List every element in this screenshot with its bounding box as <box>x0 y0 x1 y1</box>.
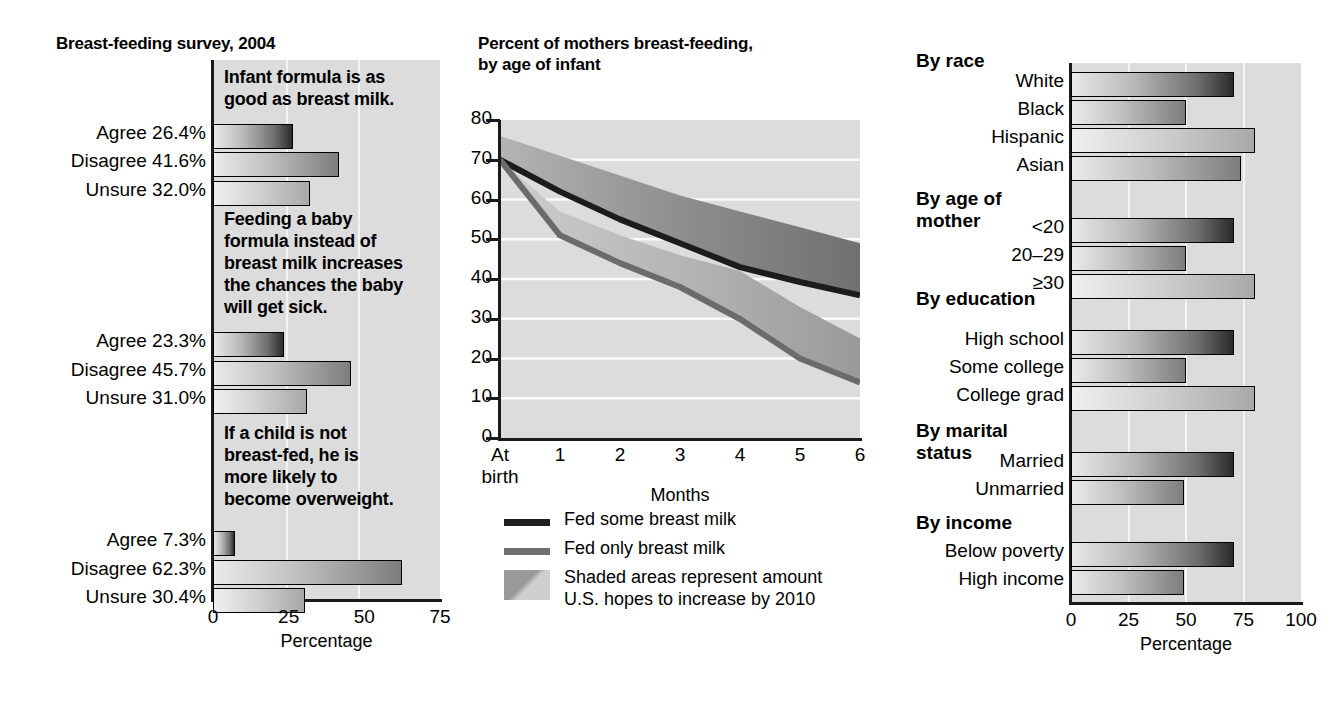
right-row-label-4-1: Married <box>900 450 1064 472</box>
right-row-label-4-2: Unmarried <box>900 478 1064 500</box>
right-bar-2-1 <box>1071 218 1234 243</box>
right-x-tick-0: 0 <box>1045 609 1097 631</box>
center-y-tick-70: 70 <box>446 147 492 169</box>
center-y-tickmark-80 <box>486 119 500 122</box>
left-bar-1-2 <box>213 152 339 177</box>
center-chart-svg <box>500 120 860 438</box>
left-bar-2-3 <box>213 389 307 414</box>
gray-line-swatch-icon <box>504 548 550 555</box>
left-survey-chart-panel: Breast-feeding survey, 2004 Infant formu… <box>0 0 460 711</box>
center-y-tickmark-70 <box>486 159 500 162</box>
right-bar-4-2 <box>1071 480 1184 505</box>
right-x-tick-100: 100 <box>1275 609 1327 631</box>
left-row-label-3-1: Agree 7.3% <box>40 529 206 551</box>
right-bar-1-1 <box>1071 72 1234 97</box>
center-y-tickmark-0 <box>486 437 500 440</box>
left-x-tick-0: 0 <box>189 606 237 628</box>
left-row-label-2-2: Disagree 45.7% <box>40 359 206 381</box>
right-bar-3-3 <box>1071 386 1255 411</box>
left-bar-2-1 <box>213 332 284 357</box>
legend-label-fed-only: Fed only breast milk <box>564 537 725 559</box>
center-y-tick-80: 80 <box>446 107 492 129</box>
center-y-tick-60: 60 <box>446 187 492 209</box>
left-row-label-1-1: Agree 26.4% <box>40 122 206 144</box>
center-y-tick-30: 30 <box>446 306 492 328</box>
right-bar-1-3 <box>1071 128 1255 153</box>
left-row-label-2-3: Unsure 31.0% <box>40 387 206 409</box>
left-x-tick-25: 25 <box>265 606 313 628</box>
center-x-tick-3: 3 <box>646 444 714 466</box>
left-x-tick-75: 75 <box>416 606 464 628</box>
right-bar-2-3 <box>1071 274 1255 299</box>
right-x-tick-75: 75 <box>1218 609 1270 631</box>
left-question-1: Infant formula is as good as breast milk… <box>224 66 434 110</box>
right-bar-5-2 <box>1071 570 1184 595</box>
right-group-head-5: By income <box>916 512 1066 534</box>
center-chart-title: Percent of mothers breast-feeding, by ag… <box>478 33 753 75</box>
center-y-tickmark-30 <box>486 318 500 321</box>
center-plot-area <box>500 120 860 438</box>
center-y-tick-10: 10 <box>446 385 492 407</box>
center-y-tick-50: 50 <box>446 226 492 248</box>
legend-label-shaded-areas: Shaded areas represent amount U.S. hopes… <box>564 566 822 610</box>
center-y-tickmark-20 <box>486 358 500 361</box>
right-row-label-5-1: Below poverty <box>900 540 1064 562</box>
right-x-tick-25: 25 <box>1103 609 1155 631</box>
center-y-tick-40: 40 <box>446 266 492 288</box>
left-bar-1-3 <box>213 181 310 206</box>
center-x-tick-1: 1 <box>526 444 594 466</box>
right-bar-3-1 <box>1071 330 1234 355</box>
center-x-tick-5: 5 <box>766 444 834 466</box>
left-x-tick-50: 50 <box>340 606 388 628</box>
right-row-label-3-3: College grad <box>900 384 1064 406</box>
right-row-label-2-3: ≥30 <box>900 272 1064 294</box>
dark-line-swatch-icon <box>504 519 550 526</box>
right-row-label-3-1: High school <box>900 328 1064 350</box>
center-y-tick-20: 20 <box>446 346 492 368</box>
left-question-2: Feeding a baby formula instead of breast… <box>224 208 434 318</box>
left-row-label-1-3: Unsure 32.0% <box>40 179 206 201</box>
center-x-tick-6: 6 <box>826 444 894 466</box>
center-y-tickmark-10 <box>486 397 500 400</box>
left-bar-2-2 <box>213 361 351 386</box>
left-row-label-2-1: Agree 23.3% <box>40 330 206 352</box>
right-bar-5-1 <box>1071 542 1234 567</box>
left-bar-1-1 <box>213 124 293 149</box>
gridline-50 <box>358 60 360 600</box>
left-bar-3-2 <box>213 560 402 585</box>
right-row-label-3-2: Some college <box>900 356 1064 378</box>
center-x-tick-0: At birth <box>466 444 534 488</box>
right-row-label-1-2: Black <box>900 98 1064 120</box>
right-group-head-1: By race <box>916 50 1066 72</box>
right-row-label-5-2: High income <box>900 568 1064 590</box>
shaded-area-swatch-icon <box>504 570 550 600</box>
left-question-3: If a child is not breast-fed, he is more… <box>224 422 434 510</box>
right-row-label-2-2: 20–29 <box>900 244 1064 266</box>
center-x-axis-line <box>498 438 862 441</box>
right-bar-3-2 <box>1071 358 1186 383</box>
left-row-label-1-2: Disagree 41.6% <box>40 150 206 172</box>
left-bar-3-1 <box>213 531 235 556</box>
left-x-axis-title: Percentage <box>213 631 440 652</box>
left-chart-title: Breast-feeding survey, 2004 <box>56 33 275 54</box>
right-bar-1-2 <box>1071 100 1186 125</box>
center-y-tickmark-60 <box>486 199 500 202</box>
right-row-label-1-3: Hispanic <box>900 126 1064 148</box>
center-x-tick-2: 2 <box>586 444 654 466</box>
center-x-tick-4: 4 <box>706 444 774 466</box>
right-row-label-2-1: <20 <box>900 216 1064 238</box>
right-bar-2-2 <box>1071 246 1186 271</box>
left-row-label-3-3: Unsure 30.4% <box>40 586 206 608</box>
right-x-tick-50: 50 <box>1160 609 1212 631</box>
center-y-tickmark-40 <box>486 278 500 281</box>
right-x-axis-title: Percentage <box>1071 634 1301 655</box>
right-bar-1-4 <box>1071 156 1241 181</box>
center-line-chart-panel: Percent of mothers breast-feeding, by ag… <box>460 0 900 711</box>
right-demographics-chart-panel: By raceBy age of motherBy educationBy ma… <box>900 0 1330 711</box>
right-row-label-1-4: Asian <box>900 154 1064 176</box>
right-row-label-1-1: White <box>900 70 1064 92</box>
left-row-label-3-2: Disagree 62.3% <box>40 558 206 580</box>
center-y-tickmark-50 <box>486 238 500 241</box>
center-x-axis-title: Months <box>580 485 780 506</box>
legend-label-fed-some: Fed some breast milk <box>564 508 736 530</box>
